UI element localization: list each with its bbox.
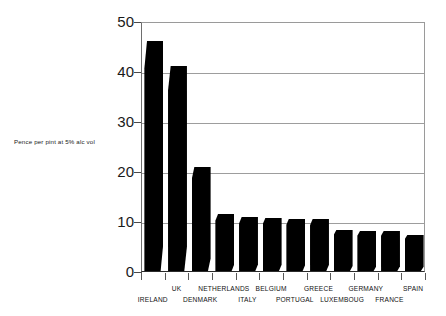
x-axis-category-labels: IRELANDUKDENMARKNETHERLANDSITALYBELGIUMP… [0, 0, 446, 316]
bar-chart: Pence per pint at 5% alc vol 01020304050… [0, 0, 446, 316]
x-axis-category-label: FRANCE [360, 296, 420, 304]
x-axis-category-label: SPAIN [383, 285, 443, 293]
